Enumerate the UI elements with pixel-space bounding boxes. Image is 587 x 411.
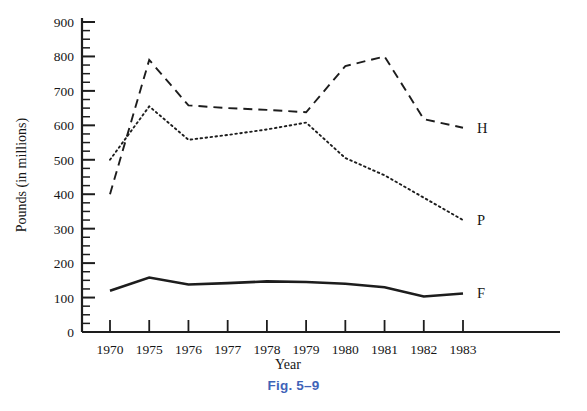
- y-tick-label: 800: [54, 49, 75, 64]
- x-tick-label: 1977: [214, 342, 241, 357]
- series-end-labels: HPF: [477, 120, 488, 302]
- y-tick-label: 100: [54, 291, 75, 306]
- y-tick-label: 600: [54, 118, 75, 133]
- x-tick-label: 1978: [253, 342, 280, 357]
- series-label-P: P: [477, 212, 485, 228]
- x-axis: 1970197519761977197819791980198119821983…: [82, 320, 560, 372]
- x-tick-label: 1970: [97, 342, 124, 357]
- series-line-P: [110, 106, 463, 220]
- y-tick-label: 200: [54, 256, 75, 271]
- x-tick-label: 1981: [371, 342, 398, 357]
- x-tick-label: 1975: [136, 342, 163, 357]
- figure-caption: Fig. 5–9: [0, 378, 587, 393]
- y-axis-tick-labels: 0100200300400500600700800900: [54, 15, 75, 340]
- series-line-F: [110, 278, 463, 297]
- series-label-H: H: [477, 120, 488, 136]
- x-tick-label: 1979: [293, 342, 320, 357]
- y-axis: 0100200300400500600700800900 Pounds (in …: [14, 15, 95, 340]
- y-tick-label: 500: [54, 153, 75, 168]
- x-tick-label: 1983: [450, 342, 477, 357]
- x-axis-tick-labels: 1970197519761977197819791980198119821983: [97, 342, 477, 357]
- series-label-F: F: [477, 285, 485, 301]
- x-axis-title: Year: [275, 357, 301, 372]
- figure-container: 0100200300400500600700800900 Pounds (in …: [0, 0, 587, 411]
- data-series-group: [110, 56, 463, 296]
- y-tick-label: 400: [54, 187, 75, 202]
- y-axis-minor-ticks: [82, 31, 90, 324]
- y-tick-label: 0: [67, 325, 74, 340]
- x-tick-label: 1982: [410, 342, 437, 357]
- x-tick-label: 1976: [175, 342, 202, 357]
- x-axis-ticks: [110, 320, 463, 332]
- x-tick-label: 1980: [332, 342, 359, 357]
- y-axis-title: Pounds (in millions): [14, 117, 30, 232]
- y-tick-label: 900: [54, 15, 75, 30]
- line-chart: 0100200300400500600700800900 Pounds (in …: [0, 0, 587, 411]
- y-tick-label: 700: [54, 84, 75, 99]
- y-tick-label: 300: [54, 222, 75, 237]
